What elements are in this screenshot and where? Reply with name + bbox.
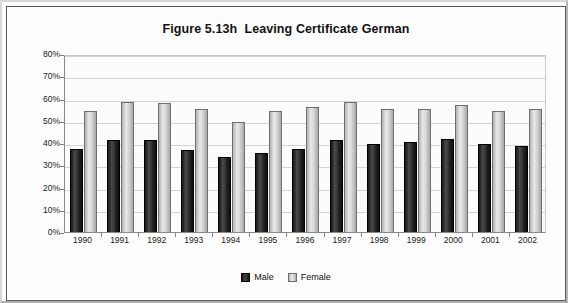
y-tick-mark bbox=[60, 55, 64, 56]
x-tick-label: 1993 bbox=[175, 235, 212, 246]
bar-male-2002 bbox=[515, 146, 528, 232]
bar-male-1995 bbox=[255, 153, 268, 232]
x-tick-mark bbox=[435, 233, 436, 237]
x-tick-label: 1998 bbox=[361, 235, 398, 246]
x-tick-mark bbox=[398, 233, 399, 237]
y-tick-label: 30% bbox=[20, 160, 60, 170]
y-tick-label: 0% bbox=[20, 227, 60, 237]
x-axis: 1990199119921993199419951996199719981999… bbox=[64, 235, 546, 249]
legend-item-female[interactable]: Female bbox=[288, 272, 331, 282]
x-tick-mark bbox=[286, 233, 287, 237]
y-axis: 80%70%60%50%40%30%20%10%0% bbox=[20, 49, 60, 239]
y-tick-mark bbox=[60, 122, 64, 123]
x-tick-label: 1996 bbox=[286, 235, 323, 246]
x-tick-label: 1991 bbox=[101, 235, 138, 246]
bar-female-1990 bbox=[84, 111, 97, 232]
bar-group bbox=[510, 56, 547, 232]
x-tick-label: 1992 bbox=[138, 235, 175, 246]
bar-group bbox=[250, 56, 287, 232]
x-tick-label: 2002 bbox=[509, 235, 546, 246]
chart-legend: MaleFemale bbox=[2, 272, 568, 282]
bar-group bbox=[139, 56, 176, 232]
x-tick-mark bbox=[212, 233, 213, 237]
bar-group bbox=[399, 56, 436, 232]
x-tick-label: 1999 bbox=[398, 235, 435, 246]
legend-label: Male bbox=[254, 272, 274, 282]
bar-group bbox=[176, 56, 213, 232]
bar-female-2000 bbox=[455, 105, 468, 232]
x-tick-label: 2000 bbox=[435, 235, 472, 246]
x-tick-mark bbox=[175, 233, 176, 237]
y-tick-mark bbox=[60, 233, 64, 234]
bar-female-1994 bbox=[232, 122, 245, 232]
bar-male-1999 bbox=[404, 142, 417, 232]
bar-male-1998 bbox=[367, 144, 380, 232]
x-tick-mark bbox=[509, 233, 510, 237]
y-tick-mark bbox=[60, 100, 64, 101]
x-tick-label: 1990 bbox=[64, 235, 101, 246]
x-tick-label: 1997 bbox=[324, 235, 361, 246]
y-tick-label: 70% bbox=[20, 71, 60, 81]
legend-label: Female bbox=[301, 272, 331, 282]
bar-female-1998 bbox=[381, 109, 394, 232]
bar-group bbox=[436, 56, 473, 232]
y-tick-mark bbox=[60, 211, 64, 212]
x-tick-mark bbox=[138, 233, 139, 237]
bar-female-1996 bbox=[306, 107, 319, 232]
bar-female-1992 bbox=[158, 103, 171, 232]
y-tick-label: 40% bbox=[20, 138, 60, 148]
bar-group bbox=[65, 56, 102, 232]
bar-female-2002 bbox=[529, 109, 542, 232]
x-tick-label: 1995 bbox=[249, 235, 286, 246]
bar-male-2000 bbox=[441, 139, 454, 232]
bar-male-1997 bbox=[330, 140, 343, 232]
bar-group bbox=[102, 56, 139, 232]
legend-swatch-male-icon bbox=[241, 273, 250, 282]
bar-group bbox=[213, 56, 250, 232]
x-tick-mark bbox=[324, 233, 325, 237]
bar-female-1993 bbox=[195, 109, 208, 232]
bar-male-1996 bbox=[292, 149, 305, 232]
y-tick-mark bbox=[60, 77, 64, 78]
bar-male-1993 bbox=[181, 150, 194, 232]
bar-male-1992 bbox=[144, 140, 157, 232]
bar-female-1995 bbox=[269, 111, 282, 232]
chart-title: Figure 5.13h Leaving Certificate German bbox=[2, 22, 568, 36]
x-tick-mark bbox=[249, 233, 250, 237]
x-tick-label: 2001 bbox=[472, 235, 509, 246]
bar-group bbox=[287, 56, 324, 232]
bar-male-1991 bbox=[107, 140, 120, 232]
plot-area bbox=[64, 55, 546, 233]
bar-female-1999 bbox=[418, 109, 431, 232]
bar-female-1991 bbox=[121, 102, 134, 232]
y-tick-label: 60% bbox=[20, 94, 60, 104]
x-tick-mark bbox=[472, 233, 473, 237]
bar-male-1994 bbox=[218, 157, 231, 232]
bar-group bbox=[325, 56, 362, 232]
x-tick-mark bbox=[101, 233, 102, 237]
bar-female-1997 bbox=[344, 102, 357, 232]
y-tick-mark bbox=[60, 189, 64, 190]
bar-male-2001 bbox=[478, 144, 491, 232]
bar-male-1990 bbox=[70, 149, 83, 232]
y-tick-label: 80% bbox=[20, 49, 60, 59]
chart-frame: Figure 5.13h Leaving Certificate German … bbox=[0, 0, 568, 303]
x-tick-mark bbox=[361, 233, 362, 237]
y-tick-label: 10% bbox=[20, 205, 60, 215]
bar-group bbox=[473, 56, 510, 232]
legend-item-male[interactable]: Male bbox=[241, 272, 274, 282]
y-tick-label: 20% bbox=[20, 183, 60, 193]
bar-group bbox=[362, 56, 399, 232]
x-tick-label: 1994 bbox=[212, 235, 249, 246]
y-tick-label: 50% bbox=[20, 116, 60, 126]
legend-swatch-female-icon bbox=[288, 273, 297, 282]
bar-female-2001 bbox=[492, 111, 505, 232]
y-tick-mark bbox=[60, 166, 64, 167]
y-tick-mark bbox=[60, 144, 64, 145]
